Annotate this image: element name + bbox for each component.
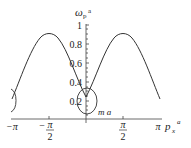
y-tick-label-1: 1 <box>77 20 82 31</box>
y-tick-label-0.4: 0.4 <box>70 77 83 88</box>
svg-text:2: 2 <box>121 131 126 142</box>
svg-text:x: x <box>171 127 176 135</box>
ma-annotation: m a <box>98 107 112 117</box>
dispersion-plot: 1 0.8 0.6 0.4 0.2 ω p a −π − π 2 π 2 π p… <box>0 0 191 148</box>
svg-text:ω: ω <box>75 6 83 18</box>
svg-text:2: 2 <box>48 131 53 142</box>
y-tick-label-0.2: 0.2 <box>70 96 83 107</box>
y-tick-label-0.8: 0.8 <box>70 39 83 50</box>
x-tick-label-neg-pi: −π <box>6 121 19 132</box>
y-ticks <box>86 25 89 115</box>
y-axis-label: ω p a <box>75 6 92 20</box>
svg-text:π: π <box>120 119 126 130</box>
svg-text:p: p <box>83 12 87 20</box>
x-axis-label: p x a <box>164 118 181 135</box>
boundary-half-ellipse <box>11 89 16 112</box>
svg-text:π: π <box>47 119 53 130</box>
x-tick-label-half-pi: π 2 <box>119 119 127 142</box>
svg-text:−: − <box>39 120 45 131</box>
svg-text:a: a <box>177 118 181 126</box>
svg-text:p: p <box>164 120 171 132</box>
x-tick-label-neg-half-pi: − π 2 <box>39 119 54 142</box>
x-tick-label-pi: π <box>155 121 161 132</box>
svg-text:a: a <box>88 7 92 15</box>
